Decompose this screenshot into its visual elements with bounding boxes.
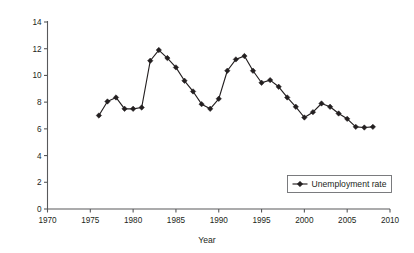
y-tick-label: 10 <box>32 71 42 80</box>
y-tick-label: 12 <box>32 45 42 54</box>
legend-label-unemployment-rate: Unemployment rate <box>312 179 387 189</box>
x-tick-label: 2000 <box>295 216 314 225</box>
x-tick-label: 1990 <box>210 216 229 225</box>
line-chart: 02468101214 1970197519801985199019952000… <box>0 0 414 253</box>
y-tick-label: 4 <box>37 152 42 161</box>
x-tick-label: 2010 <box>381 216 400 225</box>
x-tick-label: 1975 <box>81 216 100 225</box>
x-tick-label: 1985 <box>167 216 186 225</box>
y-tick-label: 0 <box>37 205 42 214</box>
x-tick-label: 1995 <box>252 216 271 225</box>
chart-figure: 02468101214 1970197519801985199019952000… <box>0 0 414 253</box>
x-tick-label: 2005 <box>338 216 357 225</box>
x-axis-title: Year <box>198 235 216 245</box>
y-tick-label: 2 <box>37 178 42 187</box>
y-tick-label: 8 <box>37 98 42 107</box>
y-tick-label: 6 <box>37 125 42 134</box>
y-tick-label: 14 <box>32 18 42 27</box>
x-tick-label: 1980 <box>124 216 143 225</box>
chart-legend[interactable]: Unemployment rate <box>288 176 392 193</box>
x-tick-label: 1970 <box>38 216 57 225</box>
